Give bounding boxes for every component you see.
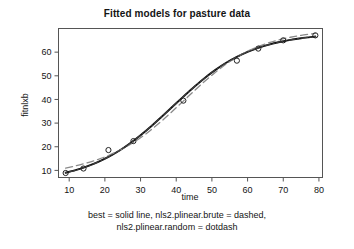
y-tick-label: 60 [41,47,51,57]
y-tick-label: 30 [41,118,51,128]
x-tick-label: 60 [243,185,253,195]
x-tick-label: 40 [171,185,181,195]
x-tick-label: 70 [278,185,288,195]
caption-line-1: best = solid line, nls2.plinear.brute = … [0,209,354,221]
x-tick-label: 10 [64,185,74,195]
y-tick-label: 40 [41,95,51,105]
x-axis-ticks [69,178,319,182]
data-point [106,147,111,152]
series-lines [66,33,316,172]
x-axis-label: time [181,192,198,202]
plot-area: 1020304050607080 102030405060 [41,29,323,195]
x-tick-label: 80 [314,185,324,195]
series-line-0 [66,37,316,173]
series-line-1 [66,33,316,168]
data-point-markers [63,33,318,176]
series-line-2 [66,37,316,173]
caption-line-2: nls2.plinear.random = dotdash [0,221,354,233]
chart-figure: Fitted models for pasture data 102030405… [0,0,354,249]
x-tick-label: 30 [136,185,146,195]
y-tick-label: 10 [41,166,51,176]
legend-caption: best = solid line, nls2.plinear.brute = … [0,209,354,233]
y-tick-label: 20 [41,142,51,152]
x-tick-label: 20 [100,185,110,195]
y-axis-label: fitnlxb [20,93,30,117]
y-axis-ticks [55,52,59,170]
x-tick-label: 50 [207,185,217,195]
y-axis-tick-labels: 102030405060 [41,47,51,175]
y-tick-label: 50 [41,71,51,81]
data-point [234,58,239,63]
plot-frame [59,29,323,178]
